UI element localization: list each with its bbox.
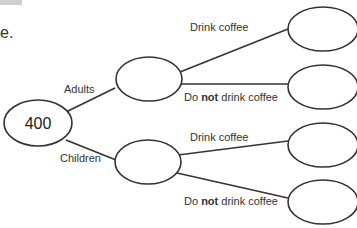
children-node[interactable] xyxy=(115,140,181,184)
label-adults: Adults xyxy=(64,83,95,95)
branch-adults-drink xyxy=(175,29,288,74)
label-children: Children xyxy=(60,152,101,164)
label-children-drink: Drink coffee xyxy=(190,131,249,143)
tree-diagram: e. 400 Adults Children Drink coffee Do n… xyxy=(0,0,357,228)
label-children-not: Do not drink coffee xyxy=(184,195,278,207)
root-value: 400 xyxy=(25,115,52,132)
cropped-text: e. xyxy=(0,24,13,41)
children-drink-node[interactable] xyxy=(288,123,357,167)
adults-drink-node[interactable] xyxy=(288,7,357,51)
branch-children-drink xyxy=(178,141,288,155)
label-adults-not: Do not drink coffee xyxy=(184,91,278,103)
label-adults-drink: Drink coffee xyxy=(190,21,249,33)
adults-node[interactable] xyxy=(116,57,182,101)
adults-not-node[interactable] xyxy=(288,65,357,109)
children-not-node[interactable] xyxy=(288,180,357,224)
header-tab-fragment xyxy=(0,0,22,5)
